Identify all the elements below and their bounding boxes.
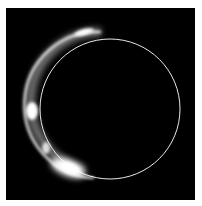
eclipse-graphic — [6, 8, 195, 200]
bead-left — [26, 102, 38, 120]
eclipse-photo — [6, 8, 195, 200]
corona-glow — [31, 32, 101, 170]
bead-lower-left — [42, 142, 50, 154]
